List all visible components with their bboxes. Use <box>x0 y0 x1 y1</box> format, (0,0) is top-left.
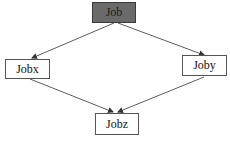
node-jobz-label: Jobz <box>106 117 128 132</box>
edge-joby-to-jobz <box>118 77 204 112</box>
node-jobx: Jobx <box>5 59 50 79</box>
edge-jobx-to-jobz <box>30 79 113 112</box>
node-job-label: Job <box>106 5 123 20</box>
edge-job-to-joby <box>118 23 204 55</box>
node-job: Job <box>92 2 136 23</box>
node-jobz: Jobz <box>95 113 139 135</box>
node-joby: Joby <box>182 55 227 76</box>
edge-job-to-jobx <box>32 23 114 58</box>
node-joby-label: Joby <box>193 58 216 73</box>
node-jobx-label: Jobx <box>16 62 39 77</box>
